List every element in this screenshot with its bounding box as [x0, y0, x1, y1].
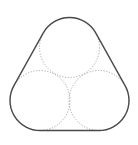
hull-outline: [10, 18, 129, 131]
tangent-circles-diagram: [0, 0, 138, 145]
diagram-canvas: [0, 0, 138, 145]
